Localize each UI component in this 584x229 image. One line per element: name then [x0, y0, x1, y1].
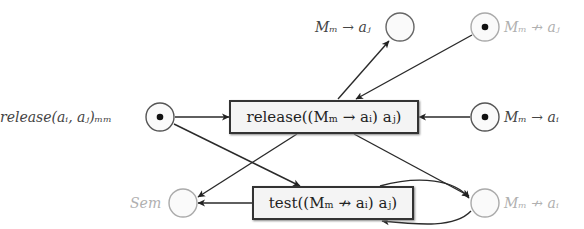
place-sem [169, 189, 197, 217]
transition-release: release((Mₘ → aᵢ) aⱼ) [229, 100, 419, 134]
transition-test: test((Mₘ ↛ aᵢ) aⱼ) [252, 186, 414, 220]
label-release-in: release(aᵢ, aⱼ)ₘₘ [0, 110, 112, 124]
token-icon [482, 114, 489, 121]
arc-top-right-to-release [356, 35, 472, 99]
place-top-mid [386, 13, 414, 41]
label-mid-right: Mₘ → aᵢ [504, 110, 559, 124]
place-bottom-right [471, 189, 499, 217]
label-top-mid: Mₘ → aⱼ [315, 20, 371, 34]
token-icon [157, 114, 164, 121]
label-sem: Sem [130, 196, 161, 210]
arc-release-to-top-mid [338, 41, 389, 99]
token-icon [482, 24, 489, 31]
label-top-right: Mₘ ↛ aⱼ [504, 20, 560, 34]
label-bottom-right: Mₘ ↛ aᵢ [504, 196, 559, 210]
